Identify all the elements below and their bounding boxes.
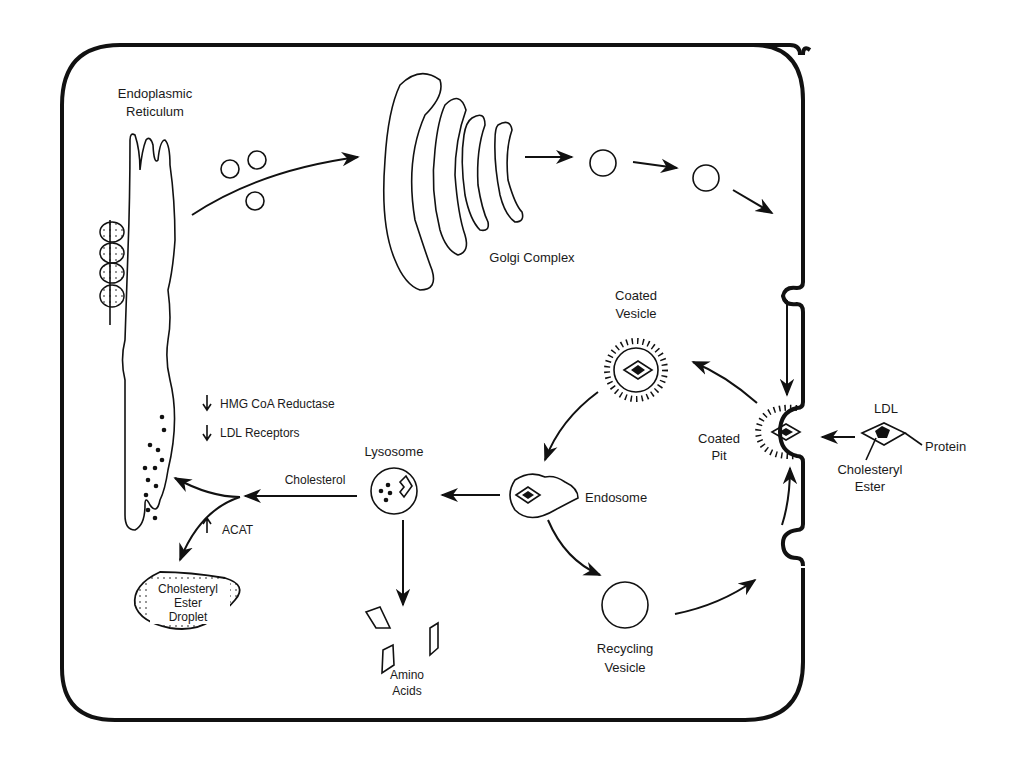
- amino-acids-label-line2: Acids: [392, 684, 421, 698]
- lysosome-label: Lysosome: [365, 444, 424, 459]
- ldl-label: LDL: [874, 401, 898, 416]
- droplet-label-line2: Ester: [174, 596, 202, 610]
- cholesterol-label: Cholesterol: [285, 473, 346, 487]
- transport-vesicles: [192, 151, 358, 215]
- amino-acids: Amino Acids: [366, 607, 438, 698]
- coated-vesicle-label-line1: Coated: [615, 288, 657, 303]
- coated-vesicle: Coated Vesicle: [607, 288, 665, 399]
- ldl-receptors-label: LDL Receptors: [220, 426, 300, 440]
- er-label-line1: Endoplasmic: [118, 86, 193, 101]
- cholesteryl-ester-label-line2: Ester: [855, 479, 886, 494]
- ldl-pathway-diagram: Endoplasmic Reticulum Golgi Complex Coat…: [0, 0, 1023, 761]
- coated-pit-label-line1: Coated: [698, 431, 740, 446]
- droplet-label-line1: Cholesteryl: [158, 582, 218, 596]
- lysosome: Lysosome Cholesterol: [245, 444, 423, 605]
- amino-acids-label-line1: Amino: [390, 668, 424, 682]
- protein-label: Protein: [925, 439, 966, 454]
- coated-pit-label-line2: Pit: [711, 448, 727, 463]
- endosome-label: Endosome: [585, 490, 647, 505]
- cholesteryl-ester-label-line1: Cholesteryl: [837, 462, 902, 477]
- recycling-vesicle-label-line1: Recycling: [597, 641, 653, 656]
- acat-label: ACAT: [222, 523, 254, 537]
- er-label-line2: Reticulum: [126, 104, 184, 119]
- secretory-vesicles: [525, 150, 772, 213]
- hmg-coa-reductase-label: HMG CoA Reductase: [220, 397, 335, 411]
- endoplasmic-reticulum: Endoplasmic Reticulum: [100, 86, 193, 530]
- ldl-particle: LDL Protein Cholesteryl Ester: [822, 401, 966, 494]
- coated-vesicle-label-line2: Vesicle: [615, 306, 656, 321]
- cholesteryl-ester-droplet: Cholesteryl Ester Droplet: [135, 572, 240, 629]
- golgi-label: Golgi Complex: [489, 250, 575, 265]
- droplet-label-line3: Droplet: [169, 610, 208, 624]
- recycling-vesicle-label-line2: Vesicle: [604, 660, 645, 675]
- golgi-complex: Golgi Complex: [384, 74, 575, 290]
- endosome: Endosome: [442, 392, 647, 575]
